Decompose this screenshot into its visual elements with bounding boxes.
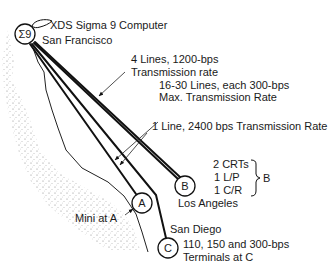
node-C-note-line2: Terminals at C [183,251,253,263]
hub-symbol: Σ9 [19,28,32,40]
node-A-symbol: A [138,197,146,209]
link-1-label-line1: 4 Lines, 1200-bps [131,53,219,65]
link-2-label-line1: 16-30 Lines, each 300-bps [159,79,290,91]
node-B-symbol: B [181,180,188,192]
hub-city-label: San Francisco [42,34,112,46]
brace-label: B [263,172,270,184]
node-C: C [158,238,178,258]
node-C-symbol: C [164,242,172,254]
node-hub-sigma9: Σ9 [15,24,35,44]
network-diagram: Σ9 A B C XDS Sigma 9 Computer San Franci… [0,0,335,273]
hub-computer-label: XDS Sigma 9 Computer [50,19,168,31]
computer-icon [32,20,52,28]
brace-icon [251,160,260,196]
node-B: B [175,176,195,196]
node-C-note-line1: 110, 150 and 300-bps [183,238,290,250]
equipment-item-2: 1 L/P [214,171,240,183]
node-A: A [132,193,152,213]
leader-4-lines [99,72,125,96]
node-C-city: San Diego [170,223,221,235]
leader-mini-at-A [125,209,133,215]
node-B-city: Los Angeles [178,197,238,209]
equipment-item-1: 2 CRTs [213,158,249,170]
link-3-label: 1 Line, 2400 bps Transmission Rate [152,120,328,132]
link-1-label-line2: Transmission rate [131,66,218,78]
equipment-item-3: 1 C/R [214,184,242,196]
link-2-label-line2: Max. Transmission Rate [159,91,277,103]
node-A-annotation: Mini at A [75,212,118,224]
